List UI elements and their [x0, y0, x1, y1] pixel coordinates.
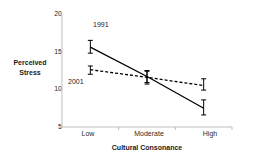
error-bar-1991-low [88, 40, 93, 53]
error-bar-2001-high [201, 79, 206, 90]
series-group [88, 40, 206, 115]
chart-container: Perceived Stress 20 15 10 5 Low Moderate… [0, 0, 254, 159]
axes-group [59, 14, 232, 130]
plot-area [0, 0, 254, 159]
